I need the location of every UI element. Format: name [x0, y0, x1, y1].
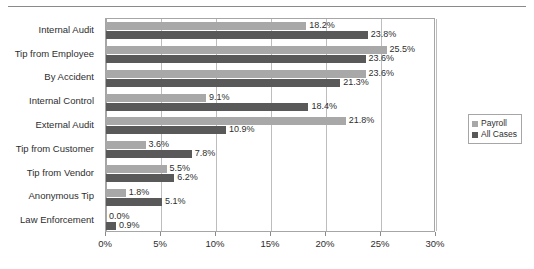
legend-item[interactable]: Payroll	[472, 118, 517, 129]
legend-swatch-icon	[472, 121, 478, 127]
bar-all-cases	[106, 103, 308, 111]
bar-group: 5.5%6.2%	[106, 162, 434, 186]
bar-value-label: 5.1%	[165, 197, 186, 206]
bar-all-cases	[106, 31, 368, 39]
bar-group: 18.2%23.8%	[106, 19, 434, 43]
bar-group: 23.6%21.3%	[106, 67, 434, 91]
legend-label: All Cases	[481, 130, 517, 139]
bar-group: 3.6%7.8%	[106, 138, 434, 162]
legend-item[interactable]: All Cases	[472, 129, 517, 140]
bar-value-label: 10.9%	[229, 125, 255, 134]
bar-value-label: 23.6%	[369, 54, 395, 63]
bar-payroll	[106, 165, 167, 173]
bar-all-cases	[106, 150, 192, 158]
x-tick-mark	[160, 232, 161, 236]
bar-value-label: 6.2%	[177, 173, 198, 182]
chart-legend: PayrollAll Cases	[468, 114, 522, 144]
category-label: Internal Control	[0, 95, 94, 106]
category-label: Tip from Employee	[0, 48, 94, 59]
bar-group: 0.0%0.9%	[106, 209, 434, 233]
bar-value-label: 18.4%	[311, 102, 337, 111]
x-tick-label: 5%	[153, 238, 167, 249]
legend-label: Payroll	[481, 119, 507, 128]
gridline-30pct	[436, 19, 437, 231]
plot-area: 18.2%23.8%25.5%23.6%23.6%21.3%9.1%18.4%2…	[105, 18, 435, 232]
bar-value-label: 0.9%	[119, 221, 140, 230]
bar-payroll	[106, 117, 346, 125]
bar-payroll	[106, 189, 126, 197]
x-tick-label: 10%	[205, 238, 224, 249]
bar-all-cases	[106, 126, 226, 134]
category-label: Law Enforcement	[0, 214, 94, 225]
x-tick-label: 0%	[98, 238, 112, 249]
bar-group: 21.8%10.9%	[106, 114, 434, 138]
category-label: By Accident	[0, 71, 94, 82]
x-tick-label: 15%	[260, 238, 279, 249]
bar-value-label: 21.8%	[349, 116, 375, 125]
bar-all-cases	[106, 222, 116, 230]
bar-group: 1.8%5.1%	[106, 185, 434, 209]
x-tick-mark	[325, 232, 326, 236]
x-tick-label: 25%	[370, 238, 389, 249]
bar-value-label: 21.3%	[343, 78, 369, 87]
category-label: Internal Audit	[0, 24, 94, 35]
category-label: External Audit	[0, 119, 94, 130]
bar-value-label: 18.2%	[309, 21, 335, 30]
bar-all-cases	[106, 55, 366, 63]
category-axis: Internal AuditTip from EmployeeBy Accide…	[0, 18, 100, 232]
x-tick-mark	[215, 232, 216, 236]
bar-chart: Internal AuditTip from EmployeeBy Accide…	[0, 0, 534, 269]
bar-group: 9.1%18.4%	[106, 90, 434, 114]
bar-value-label: 3.6%	[149, 140, 170, 149]
x-tick-mark	[435, 232, 436, 236]
bar-value-label: 7.8%	[195, 149, 216, 158]
bar-all-cases	[106, 198, 162, 206]
bar-group: 25.5%23.6%	[106, 43, 434, 67]
x-axis: 0%5%10%15%20%25%30%	[105, 232, 435, 254]
bar-value-label: 9.1%	[209, 93, 230, 102]
bar-payroll	[106, 22, 306, 30]
category-label: Tip from Customer	[0, 143, 94, 154]
bar-payroll	[106, 94, 206, 102]
x-tick-label: 30%	[425, 238, 444, 249]
bars-layer: 18.2%23.8%25.5%23.6%23.6%21.3%9.1%18.4%2…	[106, 19, 434, 231]
category-label: Anonymous Tip	[0, 190, 94, 201]
category-label: Tip from Vendor	[0, 167, 94, 178]
bar-payroll	[106, 46, 387, 54]
x-tick-mark	[105, 232, 106, 236]
bar-value-label: 1.8%	[129, 188, 150, 197]
x-tick-mark	[380, 232, 381, 236]
bar-payroll	[106, 141, 146, 149]
x-tick-mark	[270, 232, 271, 236]
x-tick-label: 20%	[315, 238, 334, 249]
legend-swatch-icon	[472, 132, 478, 138]
bar-value-label: 23.6%	[369, 69, 395, 78]
bar-value-label: 23.8%	[371, 30, 397, 39]
bar-payroll	[106, 70, 366, 78]
bar-all-cases	[106, 174, 174, 182]
bar-all-cases	[106, 79, 340, 87]
